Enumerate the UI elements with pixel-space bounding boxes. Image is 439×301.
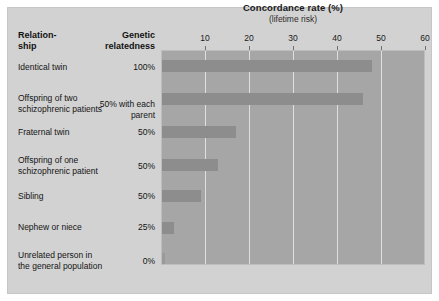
x-tick-label: 10 bbox=[200, 33, 209, 43]
bar bbox=[161, 60, 372, 72]
gridline bbox=[381, 50, 382, 265]
column-header-genetic-relatedness: Genetic relatedness bbox=[80, 30, 155, 52]
x-tick-label: 50 bbox=[376, 33, 385, 43]
x-tick-label: 60 bbox=[420, 33, 429, 43]
bar bbox=[161, 93, 363, 105]
bar bbox=[161, 126, 236, 138]
x-tick-label: 40 bbox=[332, 33, 341, 43]
x-tick-label: 20 bbox=[244, 33, 253, 43]
column-header-genetic-line1: Genetic bbox=[80, 30, 155, 41]
gridline bbox=[205, 50, 206, 265]
bar bbox=[161, 190, 201, 202]
row-relatedness-value: 50% bbox=[80, 127, 155, 138]
chart-title: Concordance rate (%) bbox=[161, 2, 425, 14]
x-tick-mark bbox=[425, 46, 426, 50]
row-relatedness-value: 50% bbox=[80, 191, 155, 202]
chart-title-block: Concordance rate (%) (lifetime risk) bbox=[161, 2, 425, 25]
column-header-genetic-line2: relatedness bbox=[80, 41, 155, 52]
bar bbox=[161, 159, 218, 171]
x-axis-ticks: 102030405060 bbox=[153, 33, 433, 46]
row-relatedness-value: 0% bbox=[80, 256, 155, 267]
gridline bbox=[337, 50, 338, 265]
bar bbox=[161, 222, 174, 234]
x-tick-label: 30 bbox=[288, 33, 297, 43]
gridline bbox=[293, 50, 294, 265]
chart-subtitle: (lifetime risk) bbox=[161, 14, 425, 25]
row-relatedness-value: 100% bbox=[80, 62, 155, 73]
chart-figure: Concordance rate (%) (lifetime risk) Rel… bbox=[0, 0, 439, 301]
gridline bbox=[249, 50, 250, 265]
row-relatedness-value: 25% bbox=[80, 222, 155, 233]
bar bbox=[161, 253, 165, 265]
row-relatedness-value: 50% with each parent bbox=[80, 99, 155, 120]
row-relatedness-value: 50% bbox=[80, 161, 155, 172]
plot-area bbox=[161, 50, 425, 265]
